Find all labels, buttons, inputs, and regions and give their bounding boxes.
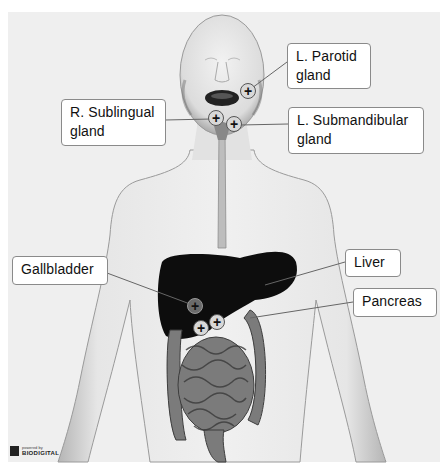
marker-l-parotid[interactable]: +	[240, 83, 256, 99]
label-line: gland	[296, 66, 362, 85]
label-line: L. Parotid	[296, 47, 362, 66]
label-pancreas[interactable]: Pancreas	[353, 288, 437, 317]
label-line: Liver	[354, 253, 392, 272]
label-line: Gallbladder	[21, 260, 99, 279]
label-l-submandibular-gland[interactable]: L. Submandibular gland	[288, 107, 424, 154]
marker-pancreas-1[interactable]: +	[193, 320, 209, 336]
marker-pancreas-2[interactable]: +	[209, 314, 225, 330]
biodigital-logo-icon	[10, 446, 19, 456]
label-line: Pancreas	[362, 292, 428, 311]
label-line: R. Sublingual	[70, 103, 157, 122]
brand-text: BIODIGITAL	[22, 450, 59, 456]
marker-r-sublingual[interactable]: +	[208, 110, 224, 126]
marker-gallbladder[interactable]: +	[187, 298, 203, 314]
label-line: gland	[70, 122, 157, 141]
label-line: gland	[297, 130, 415, 149]
label-line: L. Submandibular	[297, 111, 415, 130]
label-r-sublingual-gland[interactable]: R. Sublingual gland	[61, 99, 166, 146]
body-illustration	[0, 0, 443, 466]
marker-l-submandibular[interactable]: +	[226, 116, 242, 132]
biodigital-logo: powered by BIODIGITAL	[10, 446, 59, 456]
label-gallbladder[interactable]: Gallbladder	[12, 256, 108, 285]
label-l-parotid-gland[interactable]: L. Parotid gland	[287, 43, 371, 89]
label-liver[interactable]: Liver	[345, 249, 401, 277]
